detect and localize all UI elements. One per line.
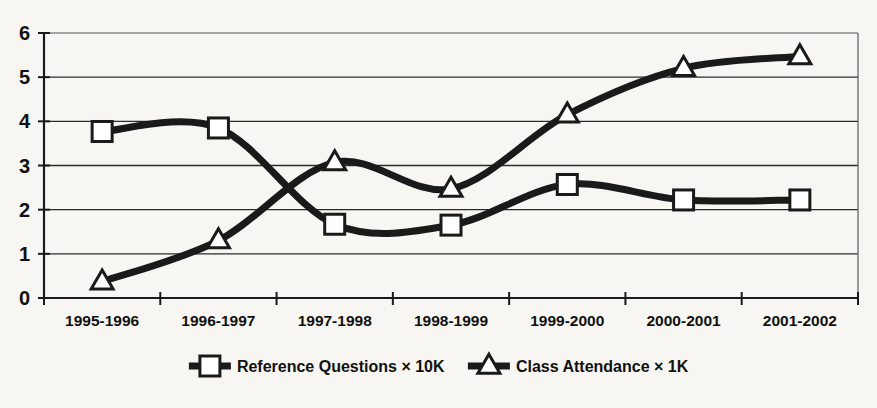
- chart-canvas: 0123456 1995-19961996-19971997-19981998-…: [0, 0, 877, 408]
- data-point-0-2: [325, 214, 345, 234]
- y-tick-label-0: 0: [19, 287, 30, 309]
- legend-label-0: Reference Questions × 10K: [237, 358, 445, 375]
- x-category-label-6: 2001-2002: [763, 312, 837, 329]
- data-point-0-5: [674, 190, 694, 210]
- x-category-label-3: 1998-1999: [414, 312, 489, 329]
- y-tick-label-3: 3: [19, 155, 30, 177]
- legend-marker-square-icon: [200, 356, 220, 376]
- data-point-0-6: [790, 190, 810, 210]
- x-category-label-0: 1995-1996: [65, 312, 140, 329]
- legend-label-1: Class Attendance × 1K: [516, 358, 689, 375]
- x-category-label-4: 1999-2000: [530, 312, 604, 329]
- data-point-0-0: [92, 121, 112, 141]
- y-tick-label-1: 1: [19, 243, 30, 265]
- data-point-0-3: [441, 215, 461, 235]
- x-category-label-1: 1996-1997: [181, 312, 255, 329]
- line-chart: 0123456 1995-19961996-19971997-19981998-…: [0, 0, 877, 408]
- data-point-0-1: [208, 118, 228, 138]
- y-tick-label-4: 4: [19, 110, 31, 132]
- x-category-label-5: 2000-2001: [647, 312, 722, 329]
- y-tick-label-6: 6: [19, 22, 30, 44]
- chart-legend: Reference Questions × 10KClass Attendanc…: [189, 354, 689, 376]
- x-category-label-2: 1997-1998: [298, 312, 373, 329]
- y-tick-label-5: 5: [19, 66, 30, 88]
- data-point-0-4: [557, 174, 577, 194]
- y-tick-label-2: 2: [19, 199, 30, 221]
